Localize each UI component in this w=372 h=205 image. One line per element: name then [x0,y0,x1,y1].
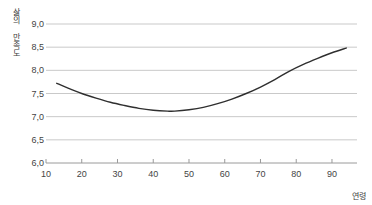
gridlines [46,24,357,140]
chart-container: 삶의 만족도 6,06,57,07,58,08,59,0 10203040506… [0,0,372,205]
x-axis-tick-label: 50 [184,169,194,179]
data-series-line [57,48,347,111]
x-axis-tick-label: 70 [255,169,265,179]
x-axis-tick-label: 10 [41,169,51,179]
x-axis-tick-label: 30 [112,169,122,179]
x-axis-tick-label: 80 [291,169,301,179]
x-axis-tick-label: 60 [220,169,230,179]
x-axis-ticks [46,159,332,163]
x-axis-tick-label: 90 [327,169,337,179]
x-axis-tick-label: 40 [148,169,158,179]
x-axis-tick-label: 20 [77,169,87,179]
x-axis-label: 연령 [352,190,366,201]
